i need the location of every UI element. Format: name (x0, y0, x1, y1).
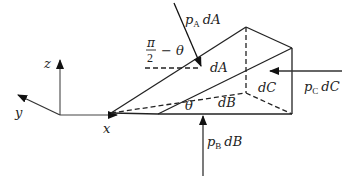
angle-complement-label: π 2 − θ (146, 36, 184, 65)
face-label-dC: dC (258, 80, 276, 95)
x-axis-label: x (103, 121, 111, 136)
prism (111, 27, 292, 114)
angle-theta-label: θ (185, 98, 193, 113)
fraction-numerator-pi: π (146, 36, 156, 50)
prism-hidden-edge-back-right (246, 93, 292, 114)
y-axis (18, 95, 60, 115)
fraction-denominator-2: 2 (147, 51, 153, 65)
face-label-dB: dB (218, 95, 236, 110)
y-axis-label: y (14, 105, 23, 120)
force-label-C: pCdC (304, 79, 340, 96)
force-C-subscript: C (312, 86, 318, 96)
face-label-dA: dA (210, 60, 228, 75)
diagram-canvas: z x y dA dB dC θ π 2 − θ pAdA (0, 0, 352, 183)
force-label-B: pBdB (207, 134, 242, 151)
force-label-A: pAdA (185, 12, 221, 29)
force-A-subscript: A (193, 19, 200, 29)
z-axis-label: z (43, 56, 51, 71)
fraction-rest-minus-theta: − θ (161, 43, 184, 58)
prism-edge-left-bottom (111, 113, 158, 114)
force-B-subscript: B (215, 141, 221, 151)
force-A-area: dA (203, 12, 221, 27)
force-B-area: dB (224, 134, 242, 149)
force-C-area: dC (321, 79, 339, 94)
prism-edge-top-back (246, 27, 292, 48)
coordinate-axes: z x y (14, 56, 117, 136)
